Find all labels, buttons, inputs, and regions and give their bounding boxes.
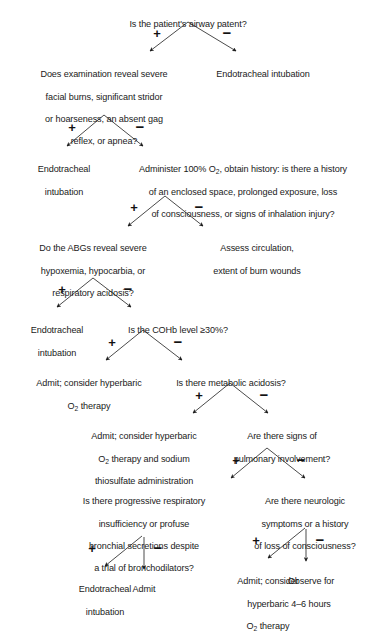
node-text-line: reflex, or apnea? — [14, 136, 194, 147]
node-text-line: of consciousness, or signs of inhalation… — [112, 209, 374, 220]
node-assess-circulation: Assess circulation, extent of burn wound… — [186, 232, 328, 288]
node-abg-question: Do the ABGs reveal severe hypoxemia, hyp… — [8, 232, 178, 310]
node-text-line: Admit; consider hyperbaric — [58, 431, 230, 442]
node-text-line: Are there neurologic — [236, 496, 374, 507]
branch-sign-n9-positive: + — [106, 336, 118, 349]
branch-sign-n13-negative: − — [295, 453, 307, 466]
node-administer-oxygen-history-question: Administer 100% O2, obtain history: is t… — [112, 153, 374, 231]
node-text-line: Admit — [133, 584, 156, 594]
node-text-frag: therapy — [78, 401, 110, 411]
node-text-line: intubation — [4, 348, 110, 359]
node-text-line: insufficiency or profuse — [62, 519, 226, 530]
node-text-frag: therapy — [257, 621, 289, 631]
node-text-line: Admit; consider hyperbaric — [8, 378, 170, 389]
branch-sign-n15-negative: − — [314, 533, 326, 546]
node-text-line: respiratory acidosis? — [8, 288, 178, 299]
node-progressive-respiratory-insufficiency-question: Is there progressive respiratory insuffi… — [62, 485, 226, 586]
node-admit-hyperbaric-1: Admit; consider hyperbaric O2 therapy — [8, 367, 170, 423]
node-text-line: Endotracheal — [10, 164, 118, 175]
branch-sign-n9-negative: − — [172, 335, 184, 348]
node-text-line: Endotracheal intubation — [216, 69, 309, 79]
branch-sign-n5-negative: − — [193, 200, 205, 213]
node-text-frag: , obtain history: is there a history — [219, 164, 347, 174]
node-text-line: O2 therapy — [210, 621, 326, 632]
figure-caption — [6, 609, 372, 620]
node-neurologic-symptoms-question: Are there neurologic symptoms or a histo… — [236, 485, 374, 563]
node-text-frag: O — [68, 401, 75, 411]
branch-sign-n5-positive: + — [128, 201, 140, 214]
node-text-line: Is there metabolic acidosis? — [176, 378, 286, 388]
branch-sign-n6-negative: − — [122, 282, 134, 295]
node-admit: Admit — [118, 573, 170, 595]
node-text-frag: therapy and sodium — [109, 454, 190, 464]
node-endotracheal-intubation-3: Endotracheal intubation — [4, 314, 110, 370]
branch-sign-n11-positive: + — [193, 389, 205, 402]
node-text-line: Does examination reveal severe — [14, 69, 194, 80]
node-text-line: O2 therapy and sodium — [58, 454, 230, 465]
node-text-frag: O — [247, 621, 254, 631]
node-text-line: Assess circulation, — [186, 243, 328, 254]
branch-sign-n1-positive: + — [151, 27, 163, 40]
branch-sign-n6-positive: + — [56, 283, 68, 296]
node-text-line: intubation — [10, 187, 118, 198]
node-text-line: Endotracheal — [4, 325, 110, 336]
node-text-line: Is there progressive respiratory — [62, 496, 226, 507]
branch-sign-n15-positive: + — [250, 534, 262, 547]
node-text-line: O2 therapy — [8, 401, 170, 412]
branch-sign-n1-negative: − — [221, 26, 233, 39]
node-text-line: of an enclosed space, prolonged exposure… — [112, 187, 374, 198]
node-exam-findings-question: Does examination reveal severe facial bu… — [14, 58, 194, 159]
node-text-line: Observe for — [266, 576, 356, 587]
node-text-line: facial burns, significant stridor — [14, 92, 194, 103]
branch-sign-n14-negative: − — [152, 541, 164, 554]
node-pulmonary-involvement-question: Are there signs of pulmonary involvement… — [222, 420, 342, 476]
branch-sign-n11-negative: − — [258, 388, 270, 401]
node-text-line: Administer 100% O2, obtain history: is t… — [112, 164, 374, 175]
branch-sign-n13-positive: + — [230, 454, 242, 467]
node-text-line: symptoms or a history — [236, 519, 374, 530]
node-text-line: hypoxemia, hypocarbia, or — [8, 266, 178, 277]
node-text-line: Do the ABGs reveal severe — [8, 243, 178, 254]
node-text-frag: Administer 100% O — [139, 164, 216, 174]
branch-sign-n2-negative: − — [134, 120, 146, 133]
node-text-line: or hoarseness, an absent gag — [14, 114, 194, 125]
branch-sign-n14-positive: + — [86, 542, 98, 555]
node-endotracheal-intubation-1: Endotracheal intubation — [192, 58, 334, 80]
branch-sign-n2-positive: + — [66, 121, 78, 134]
node-endotracheal-intubation-2: Endotracheal intubation — [10, 153, 118, 209]
node-airway-patent-question: Is the patient's airway patent? — [105, 8, 271, 30]
node-metabolic-acidosis-question: Is there metabolic acidosis? — [158, 367, 304, 389]
node-text-line: extent of burn wounds — [186, 266, 328, 277]
node-text-line: Are there signs of — [222, 431, 342, 442]
